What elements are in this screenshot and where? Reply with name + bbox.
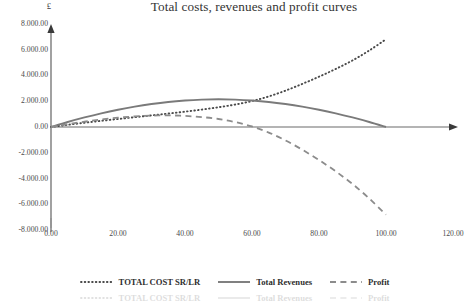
plot-area <box>0 0 469 303</box>
series-line-total-revenues <box>51 99 386 127</box>
legend-row-clipped: TOTAL COST SR/LRTotal RevenuesProfit <box>0 293 469 303</box>
series-line-profit <box>51 115 386 214</box>
legend-label: Profit <box>368 277 389 287</box>
legend-row-primary: TOTAL COST SR/LRTotal RevenuesProfit <box>0 277 469 287</box>
chart-legend: TOTAL COST SR/LRTotal RevenuesProfit TOT… <box>0 277 469 303</box>
legend-item-total-revenues[interactable]: Total Revenues <box>217 277 312 287</box>
legend-label: Profit <box>368 293 389 303</box>
legend-label: Total Revenues <box>256 277 312 287</box>
legend-item-total-cost-sr-lr[interactable]: TOTAL COST SR/LR <box>80 277 201 287</box>
chart-figure: Total costs, revenues and profit curves … <box>0 0 469 303</box>
legend-label: TOTAL COST SR/LR <box>119 277 201 287</box>
legend-item-profit[interactable]: Profit <box>329 293 389 303</box>
axis-lines <box>47 24 458 232</box>
legend-item-profit[interactable]: Profit <box>329 277 389 287</box>
legend-swatch-dashed-line-icon <box>329 294 363 302</box>
legend-swatch-dotted-line-icon <box>80 294 114 302</box>
legend-item-total-cost-sr-lr[interactable]: TOTAL COST SR/LR <box>80 293 201 303</box>
legend-swatch-dotted-line-icon <box>80 278 114 286</box>
legend-swatch-solid-line-icon <box>217 294 251 302</box>
legend-swatch-dashed-line-icon <box>329 278 363 286</box>
legend-swatch-solid-line-icon <box>217 278 251 286</box>
legend-item-total-revenues[interactable]: Total Revenues <box>217 293 312 303</box>
legend-label: Total Revenues <box>256 293 312 303</box>
legend-label: TOTAL COST SR/LR <box>119 293 201 303</box>
